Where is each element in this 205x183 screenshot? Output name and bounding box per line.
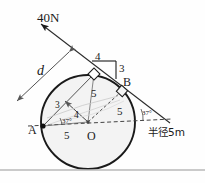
point-a-marker: [40, 123, 45, 128]
angle-right-degree: °: [149, 109, 152, 117]
point-o-marker: [86, 120, 89, 123]
force-label-40n: 40N: [37, 11, 59, 24]
angle-label-right-37: 37°: [142, 110, 152, 117]
angle-left-value: 37: [62, 117, 69, 125]
triangle-top-side-4: 4: [95, 51, 101, 62]
triangle-top-side-3: 3: [119, 63, 125, 74]
center-o-label: O: [87, 130, 96, 142]
diagram-canvas: [0, 0, 205, 183]
angle-left-degree: °: [69, 117, 72, 125]
angle-label-left-37: 37°: [62, 118, 72, 125]
angle-right-value: 37: [142, 109, 149, 117]
moment-arm-label-d: d: [37, 64, 44, 78]
bottom-segment-label-5: 5: [64, 130, 70, 141]
physics-figure: 40N d 4 3 B 3 5 5 4 37° 37° A 5 O 半径5m: [0, 0, 205, 183]
point-b-label: B: [123, 76, 131, 88]
radius-note-label: 半径5m: [148, 127, 185, 138]
chord-label-3: 3: [55, 101, 60, 111]
point-a-label: A: [28, 124, 37, 136]
right-segment-label-5: 5: [117, 106, 123, 117]
upper-segment-label-5: 5: [91, 88, 97, 99]
perpendicular-label-4: 4: [74, 111, 79, 121]
